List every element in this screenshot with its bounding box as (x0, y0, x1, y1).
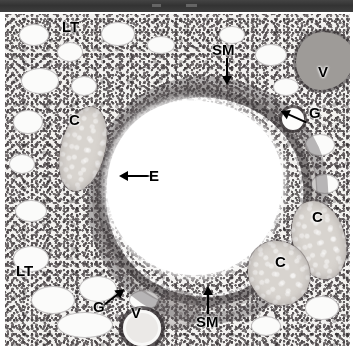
label-c-right-2: C (275, 254, 286, 269)
alveolar-space (15, 200, 47, 222)
alveolar-space (19, 24, 49, 46)
alveolar-space (21, 68, 59, 94)
alveolar-space (13, 110, 43, 134)
label-c-left: C (69, 112, 80, 127)
alveolar-space (273, 78, 299, 96)
label-e-left: E (149, 168, 159, 183)
vessel-top-right (296, 32, 350, 90)
header-speck (186, 4, 197, 7)
label-g-bottom: G (93, 299, 105, 314)
alveolar-space (31, 286, 75, 314)
alveolar-space (9, 154, 35, 174)
alveolar-space (57, 42, 83, 62)
label-lt-bottom: LT (16, 263, 33, 278)
label-v-right: V (318, 64, 328, 79)
alveolar-space (251, 316, 281, 336)
header-bar (0, 0, 353, 12)
alveolar-space (57, 312, 113, 338)
label-sm-bottom: SM (196, 314, 219, 329)
label-sm-top: SM (212, 42, 235, 57)
screenshot-root: LT SM V G C E C C LT G V SM (0, 0, 353, 350)
alveolar-space (101, 22, 135, 46)
label-lt-top: LT (62, 19, 79, 34)
header-speck (152, 4, 161, 7)
label-v-bottom: V (131, 305, 141, 320)
vessel-bottom (123, 310, 161, 346)
label-c-right-1: C (312, 209, 323, 224)
histology-micrograph: LT SM V G C E C C LT G V SM (5, 14, 350, 346)
alveolar-space (255, 44, 287, 66)
label-g-right: G (309, 105, 321, 120)
alveolar-space (305, 296, 339, 320)
alveolar-space (147, 36, 175, 54)
gland-cluster-bottom (155, 290, 201, 330)
alveolar-space (71, 76, 97, 96)
